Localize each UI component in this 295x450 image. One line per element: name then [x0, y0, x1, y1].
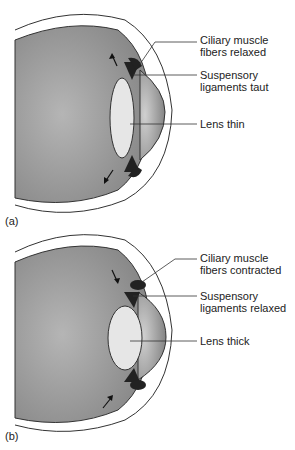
eye-panel-b: [15, 235, 197, 432]
label-ligaments-a: Suspensory ligaments taut: [200, 69, 268, 93]
label-line: ligaments taut: [200, 81, 268, 93]
label-ligaments-b: Suspensory ligaments relaxed: [200, 290, 286, 314]
label-line: Ciliary muscle: [200, 34, 268, 46]
panel-label-b: (b): [5, 430, 18, 442]
label-line: Suspensory: [200, 290, 286, 302]
label-line: ligaments relaxed: [200, 302, 286, 314]
eye-accommodation-diagram: [0, 0, 295, 450]
eye-panel-a: [15, 14, 197, 212]
lens-b: [108, 306, 142, 370]
label-ciliary-b: Ciliary muscle fibers contracted: [200, 252, 281, 276]
label-line: Ciliary muscle: [200, 252, 281, 264]
ciliary-muscle-b: [130, 280, 146, 290]
label-line: fibers relaxed: [200, 46, 268, 58]
label-lens-a: Lens thin: [200, 118, 245, 130]
cornea-chamber-a: [140, 70, 165, 160]
label-line: fibers contracted: [200, 264, 281, 276]
panel-label-a: (a): [5, 215, 18, 227]
label-lens-b: Lens thick: [200, 335, 250, 347]
lens-a: [110, 78, 134, 158]
label-ciliary-a: Ciliary muscle fibers relaxed: [200, 34, 268, 58]
label-line: Suspensory: [200, 69, 268, 81]
